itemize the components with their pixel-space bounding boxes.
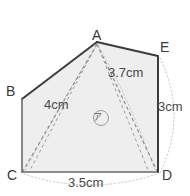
region-marker-label: ア	[93, 113, 102, 122]
right-side-measure-arc	[160, 58, 174, 173]
vertex-label-e: E	[160, 40, 169, 54]
geometry-figure: A B C D E 3.7cm 4cm 3cm 3.5cm ア	[0, 0, 190, 196]
pentagon-shape	[22, 42, 158, 172]
measure-label-base-cd: 3.5cm	[68, 176, 103, 189]
measure-label-side-ed: 3cm	[158, 100, 183, 113]
vertex-label-a: A	[92, 28, 101, 42]
vertex-label-d: D	[162, 168, 172, 182]
measure-label-slant-ad: 3.7cm	[108, 66, 143, 79]
vertex-label-c: C	[7, 168, 17, 182]
measure-label-diagonal-ac: 4cm	[44, 98, 69, 111]
vertex-label-b: B	[6, 84, 15, 98]
